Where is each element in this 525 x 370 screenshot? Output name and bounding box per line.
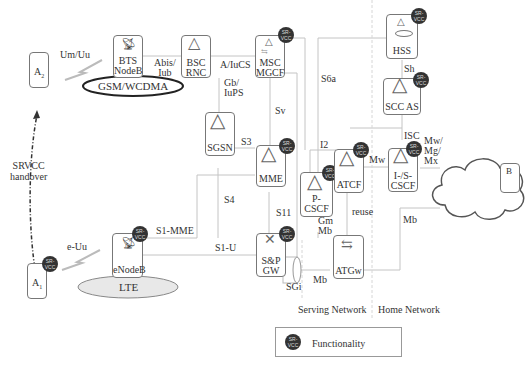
node-i-s-cscf-line2: CSCF (391, 180, 415, 191)
srvcc-badge-msc: SR-VCC (278, 27, 294, 43)
node-sp-gw-line2: GW (263, 265, 280, 276)
interface-a-iucs: A/IuCS (220, 60, 251, 70)
node-bsc-line2: RNC (186, 67, 207, 78)
interface-mw-mg-mx: Mw/Mg/Mx (424, 136, 443, 166)
srvcc-badge-legend: SR-VCC (285, 334, 301, 350)
interface-sh: Sh (404, 64, 415, 74)
srvcc-badge-i-s-cscf: SR-VCC (406, 141, 422, 157)
interface-isc: ISC (404, 131, 420, 141)
node-bts-line2: NodeB (114, 65, 142, 76)
node-p-cscf-label: P-CSCF (301, 194, 332, 214)
interface-gm-mb: GmMb (318, 216, 333, 236)
triangle-icon: △ (210, 115, 225, 125)
interface-e-uu: e-Uu (67, 242, 87, 252)
interface-s4: S4 (224, 195, 235, 205)
srvcc-badge-hss: SR-VCC (411, 8, 427, 24)
node-atgw-label: ATGw (334, 266, 363, 276)
serving-network-label: Serving Network (298, 305, 367, 315)
interface-s1-mme: S1-MME (156, 226, 194, 236)
node-sgsn-label: SGSN (206, 143, 234, 153)
srvcc-badge-sp-gw: SR-VCC (279, 226, 295, 242)
node-hss-label: HSS (387, 46, 417, 56)
device-b-label: B (506, 166, 512, 176)
node-enodeb-label: eNodeB (113, 265, 142, 275)
node-atgw: ⇆ ATGw (333, 235, 364, 279)
interface-gb-iups: Gb/IuPS (224, 78, 243, 98)
triangle-icon: △ (339, 152, 354, 162)
antenna-icon: 📡︎ (121, 39, 136, 49)
triangle-icon: △ (397, 17, 405, 27)
gsm-wcdma-label: GSM/WCDMA (98, 81, 168, 91)
triangle-icon: △ (265, 37, 273, 47)
switch-arrows-icon: ⇆ (261, 47, 268, 57)
interface-sgi: SGi (286, 282, 302, 292)
database-icon (395, 30, 413, 37)
interface-mb-home: Mb (403, 215, 417, 225)
interface-s3: S3 (241, 137, 252, 147)
interface-s11: S11 (276, 208, 291, 218)
srvcc-architecture-diagram: A2 A1 SR-VCC 📡︎ BTSNodeB △ BSCRNC △ ⇆ MS… (0, 0, 525, 370)
home-network-label: Home Network (378, 305, 440, 315)
device-a1-label: A1 (32, 278, 42, 292)
node-bts-nodeb: 📡︎ BTSNodeB (113, 35, 143, 78)
node-mme-label: MME (257, 174, 285, 184)
device-b: B (500, 163, 520, 193)
legend: SR-VCC Functionality (275, 327, 402, 357)
cross-arrows-icon: ✕ (264, 235, 276, 245)
legend-label: Functionality (312, 338, 365, 349)
node-sgsn: △ SGSN (205, 112, 235, 156)
triangle-icon: △ (307, 176, 322, 186)
node-msc-line2: MGCF (256, 67, 284, 78)
node-bsc-rnc: △ BSCRNC (181, 35, 211, 78)
triangle-icon: △ (392, 79, 407, 89)
srvcc-handover-label: SRVCChandover (10, 160, 47, 182)
switch-arrows-icon: ⇆ (341, 240, 353, 250)
interface-reuse: reuse (352, 207, 373, 217)
triangle-icon: △ (188, 38, 200, 48)
device-a2-label: A2 (34, 67, 44, 81)
lte-label: LTE (119, 282, 138, 292)
node-atcf-label: ATCF (335, 180, 363, 190)
srvcc-badge-atcf: SR-VCC (353, 142, 369, 158)
srvcc-badge-scc-as: SR-VCC (413, 72, 429, 88)
interface-um-uu: Um/Uu (60, 50, 90, 60)
interface-sv: Sv (275, 106, 286, 116)
srvcc-badge-a1: SR-VCC (42, 256, 58, 272)
interface-s1-u: S1-U (215, 243, 236, 253)
interface-abis-iub: Abis/Iub (154, 58, 176, 78)
triangle-icon: △ (261, 148, 276, 158)
interface-mb-sgi: Mb (313, 275, 327, 285)
interface-s6a: S6a (321, 74, 336, 84)
node-scc-as-label: SCC AS (384, 102, 420, 112)
srvcc-badge-enodeb: SR-VCC (132, 226, 148, 242)
device-a2: A2 (29, 52, 49, 88)
srvcc-badge-mme: SR-VCC (279, 138, 295, 154)
interface-mw: Mw (369, 155, 385, 165)
interface-i2: I2 (320, 140, 328, 150)
